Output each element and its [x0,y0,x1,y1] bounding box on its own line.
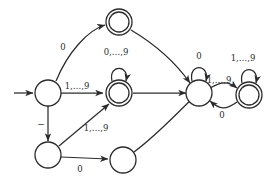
edge-q4-self [242,70,257,84]
edge-q0-q1 [56,25,105,81]
label-q0-to-q5: − [37,119,45,129]
edge-q5-q6 [61,157,108,159]
automaton-diagram: 0 1,…,9 0,…,9 − 1,…,9 0 0 1,…,9 0 1,…,9 [0,0,275,185]
state-state-top-accept[interactable] [106,9,132,35]
label-q5-to-q2: 1,…,9 [84,123,109,133]
label-q3-to-q4: 1,…,9 [207,75,232,85]
label-q4-self: 1,…,9 [231,53,256,63]
label-q2-self: 0,…,9 [104,47,129,57]
edge-q4-q3 [210,101,237,108]
label-q3-self: 0 [196,51,201,61]
edge-q3-self [192,68,207,82]
states-layer [35,9,262,173]
edge-q6-q3 [134,101,190,152]
label-q0-to-q2: 1,…,9 [65,81,90,91]
state-start-state[interactable] [35,80,61,106]
automaton-canvas: 0 1,…,9 0,…,9 − 1,…,9 0 0 1,…,9 0 1,…,9 [0,0,275,185]
label-q5-to-q6: 0 [77,164,82,174]
state-state-mid-accept[interactable] [106,80,132,106]
label-q0-to-q1: 0 [60,42,65,52]
label-q4-to-q3: 0 [219,110,224,120]
state-state-lower-right[interactable] [110,147,136,173]
edge-q1-q3 [131,30,190,83]
state-state-far-right[interactable] [236,82,262,108]
state-state-lower-left[interactable] [35,142,61,168]
edge-q2-self [112,68,127,81]
